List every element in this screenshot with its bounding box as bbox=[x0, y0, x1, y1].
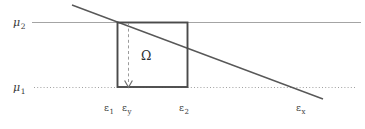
mu2-label: μ2 bbox=[13, 17, 25, 31]
omega-rectangle bbox=[118, 23, 188, 88]
omega-region-label: Ω bbox=[141, 50, 151, 63]
epsilon-x-subscript: x bbox=[301, 108, 305, 116]
epsilon-2-subscript: 2 bbox=[184, 108, 189, 116]
epsilon-x-label: εx bbox=[296, 103, 305, 116]
epsilon-y-subscript: y bbox=[127, 108, 131, 116]
mu1-label-subscript: 1 bbox=[20, 87, 25, 96]
epsilon-2-label: ε2 bbox=[179, 103, 189, 116]
epsilon-1-subscript: 1 bbox=[109, 108, 114, 116]
figure-canvas: μ2 μ1 Ω ε1 εy ε2 εx bbox=[0, 0, 365, 129]
diagonal-line bbox=[72, 5, 323, 99]
mu1-label: μ1 bbox=[13, 82, 25, 96]
epsilon-1-label: ε1 bbox=[104, 103, 114, 116]
mu2-label-subscript: 2 bbox=[20, 22, 25, 31]
epsilon-y-label: εy bbox=[122, 103, 131, 116]
